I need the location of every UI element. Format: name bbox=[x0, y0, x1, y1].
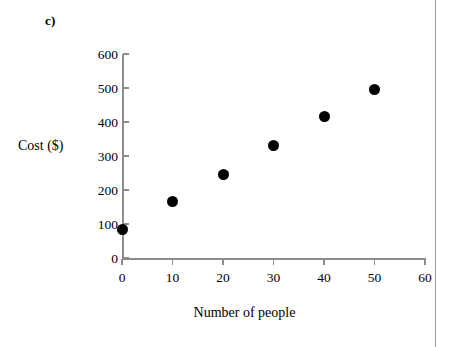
y-tick-label: 500 bbox=[78, 82, 118, 96]
y-tick-label: 0 bbox=[78, 252, 118, 266]
y-tick-label: 100 bbox=[78, 218, 118, 232]
x-tick-mark bbox=[121, 259, 122, 265]
x-tick-label: 30 bbox=[254, 271, 294, 285]
y-tick-mark bbox=[123, 53, 129, 54]
data-point bbox=[268, 140, 279, 151]
x-tick-mark bbox=[222, 259, 223, 265]
data-point bbox=[218, 169, 229, 180]
y-axis-title: Cost ($) bbox=[18, 139, 64, 153]
y-tick-label: 200 bbox=[78, 184, 118, 198]
y-tick-mark bbox=[123, 257, 129, 258]
x-tick-label: 20 bbox=[203, 271, 243, 285]
y-tick-mark bbox=[123, 121, 129, 122]
scatter-plot: 0100200300400500600 0102030405060 Cost (… bbox=[0, 0, 455, 347]
y-tick-mark bbox=[123, 87, 129, 88]
x-tick-mark bbox=[424, 259, 425, 265]
data-point bbox=[319, 111, 330, 122]
x-tick-mark bbox=[273, 259, 274, 265]
x-tick-mark bbox=[323, 259, 324, 265]
data-point bbox=[117, 224, 128, 235]
x-axis-title: Number of people bbox=[0, 306, 455, 320]
x-tick-label: 60 bbox=[405, 271, 445, 285]
x-tick-mark bbox=[374, 259, 375, 265]
chart-page: c) 0100200300400500600 0102030405060 Cos… bbox=[0, 0, 455, 347]
x-tick-label: 50 bbox=[355, 271, 395, 285]
x-tick-label: 40 bbox=[304, 271, 344, 285]
data-point bbox=[167, 196, 178, 207]
y-tick-mark bbox=[123, 189, 129, 190]
x-tick-label: 0 bbox=[102, 271, 142, 285]
y-tick-label: 300 bbox=[78, 150, 118, 164]
x-axis-title-text: Number of people bbox=[194, 305, 296, 320]
y-tick-label: 600 bbox=[78, 48, 118, 62]
y-tick-mark bbox=[123, 155, 129, 156]
x-tick-label: 10 bbox=[153, 271, 193, 285]
y-tick-label: 400 bbox=[78, 116, 118, 130]
x-tick-mark bbox=[172, 259, 173, 265]
data-point bbox=[369, 84, 380, 95]
